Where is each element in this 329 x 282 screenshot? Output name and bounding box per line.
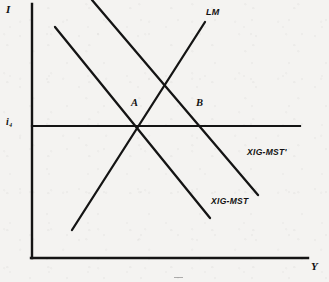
is-curve-shifted-label: XIG-MST' — [247, 147, 287, 157]
x-axis-label: Y — [311, 260, 318, 272]
is-curve-initial-label: XIG-MST — [211, 196, 249, 206]
is-curve-shifted — [92, 0, 258, 195]
figure-canvas: I Y i₄ LM XIG-MST XIG-MST' A B — [0, 0, 329, 282]
equilibrium-point-a-label: A — [131, 97, 138, 108]
y-axis-label: I — [6, 3, 10, 15]
interest-rate-tick-label: i₄ — [6, 116, 13, 127]
is-curve-initial — [55, 27, 210, 218]
lm-curve-label: LM — [206, 7, 220, 17]
equilibrium-point-b-label: B — [196, 97, 203, 108]
stray-scan-mark — [174, 277, 183, 278]
plot-area — [0, 0, 329, 282]
